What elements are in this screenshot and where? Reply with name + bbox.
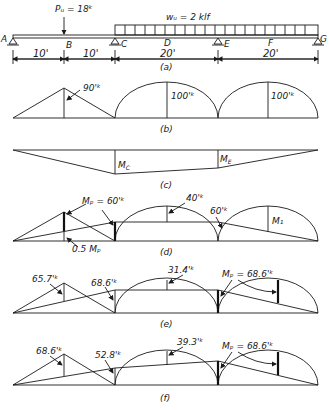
node-a: A [0,34,7,44]
label-31-4: 31.4'ᵏ [168,265,195,275]
caption-f: (f) [160,393,170,403]
label-100-cd: 100'ᵏ [171,91,195,101]
label-52-8: 52.8'ᵏ [95,350,122,360]
label-68-6-b: 68.6'ᵏ [36,346,63,356]
label-65-7: 65.7'ᵏ [32,274,59,284]
label-39-3: 39.3'ᵏ [177,337,204,347]
node-g: G [320,34,327,44]
panel-e-trial-mechanism: 65.7'ᵏ 68.6'ᵏ 31.4'ᵏ Mₚ = 68.6'ᵏ (e) [13,265,318,329]
label-90: 90'ᵏ [83,83,101,93]
node-c: C [121,39,128,49]
distributed-load [115,25,318,35]
label-mp68-6: Mₚ = 68.6'ᵏ [222,269,273,279]
caption-c: (c) [160,180,172,190]
roller-support-icon [109,38,121,45]
caption-b: (b) [160,124,173,134]
label-half-mp: 0.5 Mₚ [72,244,101,254]
node-b: B [66,40,72,50]
label-mp60: Mₚ = 60'ᵏ [82,196,125,206]
node-f: F [268,38,274,48]
panel-b-free-moment: 90'ᵏ 100'ᵏ 100'ᵏ (b) [13,82,318,134]
panel-a-beam-loading: wᵤ = 2 klf Pᵤ = 18ᵏ A B C D E F G [0,4,327,72]
panel-f-final-mechanism: 68.6'ᵏ 52.8'ᵏ 39.3'ᵏ Mₚ = 68.6'ᵏ (f) [13,337,318,403]
node-e: E [224,39,230,49]
panel-c-reactant-moment: MC ME (c) [13,150,318,190]
dim-ce: 20' [160,48,175,59]
caption-a: (a) [160,62,173,72]
distributed-load-label: wᵤ = 2 klf [166,12,212,22]
caption-d: (d) [160,247,173,257]
dim-bc: 10' [83,48,98,59]
label-mc: MC [118,160,131,171]
panel-d-trial-mechanism: Mₚ = 60'ᵏ 0.5 Mₚ 40'ᵏ 60'ᵏ M₁ (d) [13,193,318,257]
caption-e: (e) [160,319,173,329]
label-68-6: 68.6'ᵏ [91,278,118,288]
roller-support-icon [212,38,224,45]
label-me: ME [220,154,232,165]
dim-ab: 10' [33,48,48,59]
pin-support-icon [7,38,19,45]
label-m1: M₁ [272,216,284,226]
label-60: 60'ᵏ [210,206,228,216]
plastic-analysis-diagram: wᵤ = 2 klf Pᵤ = 18ᵏ A B C D E F G [0,0,329,410]
dim-eg: 20' [263,48,278,59]
label-mp68-6-b: Mₚ = 68.6'ᵏ [222,341,273,351]
label-40: 40'ᵏ [186,193,204,203]
node-d: D [164,38,171,48]
label-100-eg: 100'ᵏ [271,91,295,101]
point-load-label: Pᵤ = 18ᵏ [55,4,93,14]
